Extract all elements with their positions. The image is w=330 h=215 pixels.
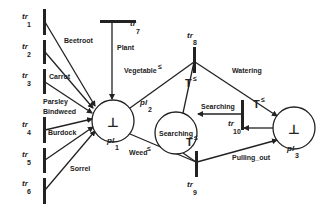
svg-text:T: T [253, 98, 260, 110]
svg-text:10: 10 [233, 128, 241, 135]
label-tr1: tr 1 [22, 12, 31, 28]
transition-tr6[interactable] [43, 178, 46, 204]
transition-tr5[interactable] [43, 148, 46, 173]
svg-text:tr: tr [22, 71, 29, 80]
svg-text:9: 9 [193, 189, 197, 196]
arc-tr1-pl1 [45, 22, 95, 106]
arc-label-watering: Watering [232, 67, 262, 75]
transition-tr9[interactable] [195, 151, 198, 177]
svg-text:pl: pl [286, 144, 295, 153]
arc-label-plant: Plant [117, 44, 135, 51]
svg-text:≤: ≤ [194, 134, 198, 141]
svg-text:≤: ≤ [261, 96, 265, 103]
svg-text:tr: tr [22, 12, 29, 21]
arc-label-beetroot: Beetroot [64, 37, 93, 44]
label-tr10: tr 10 [228, 119, 241, 135]
svg-text:tr: tr [187, 180, 194, 189]
arc-label-carrot: Carrot [49, 73, 71, 80]
svg-text:≤: ≤ [158, 63, 162, 70]
svg-text:5: 5 [27, 159, 31, 166]
svg-text:tr: tr [130, 19, 137, 28]
svg-text:≤: ≤ [193, 75, 197, 82]
arc-label-searching: Searching [201, 103, 235, 111]
label-tr4: tr 4 [22, 120, 31, 136]
svg-text:pl: pl [139, 98, 148, 107]
label-tr2: tr 2 [22, 42, 31, 58]
svg-text:tr: tr [22, 120, 29, 129]
token-bottom-icon: ⊥ [107, 115, 119, 130]
label-tr8: tr 8 [187, 31, 197, 46]
svg-text:T: T [186, 136, 193, 148]
svg-text:Vegetable: Vegetable [124, 67, 157, 75]
arc-label-vegetable: Vegetable ≤ [124, 63, 162, 75]
svg-text:7: 7 [136, 28, 140, 35]
arc-label-bindweed: Bindweed [43, 108, 76, 115]
svg-text:T: T [185, 77, 192, 89]
label-tr7: tr 7 [130, 19, 140, 35]
arc-label-pulling-out: Pulling_out [232, 154, 271, 162]
arc-label-t-bottom: T ≤ [186, 134, 198, 148]
svg-text:2: 2 [148, 106, 152, 113]
transition-tr3[interactable] [43, 69, 46, 94]
arc-label-t-right: T ≤ [253, 96, 265, 110]
petri-net-diagram: ⊥ Searching ⊥ tr 1 tr 2 tr 3 tr 4 tr 5 t… [0, 0, 330, 215]
svg-text:2: 2 [27, 51, 31, 58]
svg-text:tr: tr [22, 150, 29, 159]
place-pl3[interactable]: ⊥ [273, 107, 315, 149]
transition-tr1[interactable] [43, 9, 46, 35]
svg-text:Weed: Weed [129, 149, 148, 156]
arc-label-t-top: T ≤ [185, 75, 197, 89]
svg-text:3: 3 [295, 152, 299, 159]
svg-text:pl: pl [106, 136, 115, 145]
transition-tr8[interactable] [193, 47, 196, 73]
svg-text:1: 1 [27, 21, 31, 28]
arc-label-sorrel: Sorrel [70, 165, 90, 172]
svg-text:4: 4 [27, 129, 31, 136]
arc-label-parsley: Parsley [43, 98, 68, 106]
transition-tr4[interactable] [43, 117, 46, 143]
label-tr5: tr 5 [22, 150, 31, 166]
arc-label-weed: Weed ≤ [129, 145, 151, 156]
arc-label-burdock: Burdock [48, 129, 77, 136]
svg-text:≤: ≤ [147, 145, 151, 152]
label-pl2: pl 2 [139, 98, 152, 113]
label-tr3: tr 3 [22, 71, 31, 87]
transition-tr10[interactable] [241, 100, 244, 130]
label-tr6: tr 6 [22, 179, 31, 195]
svg-text:6: 6 [27, 188, 31, 195]
label-tr9: tr 9 [187, 180, 197, 196]
svg-text:tr: tr [22, 42, 29, 51]
svg-text:8: 8 [193, 39, 197, 46]
svg-text:tr: tr [22, 179, 29, 188]
transition-tr2[interactable] [43, 40, 46, 64]
arc-tr6-pl1 [45, 131, 95, 190]
svg-text:tr: tr [228, 119, 235, 128]
svg-text:3: 3 [27, 80, 31, 87]
svg-text:1: 1 [115, 144, 119, 151]
token-bottom-icon: ⊥ [288, 122, 300, 137]
